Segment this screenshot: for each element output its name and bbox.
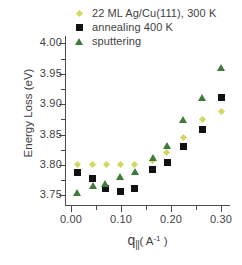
energy-loss-dispersion-chart: 3.753.803.853.903.954.00 0.000.100.200.3… <box>0 0 242 265</box>
x-tick-label: 0.10 <box>101 214 141 225</box>
y-tick-minor <box>61 180 66 181</box>
legend-item: 22 ML Ag/Cu(111), 300 K <box>72 6 216 20</box>
legend-label: 22 ML Ag/Cu(111), 300 K <box>92 6 216 20</box>
chart-legend: 22 ML Ag/Cu(111), 300 Kannealing 400 Ksp… <box>72 6 216 48</box>
x-axis-line <box>65 205 230 206</box>
x-axis-unit-exponent: -1 <box>153 234 160 243</box>
square-marker <box>72 24 86 31</box>
data-point <box>101 180 109 187</box>
data-point <box>164 159 171 166</box>
legend-item: annealing 400 K <box>72 20 216 34</box>
data-point <box>149 154 157 161</box>
data-point <box>198 94 206 101</box>
data-point <box>89 182 97 189</box>
data-point <box>117 188 124 195</box>
x-tick-major <box>221 206 222 212</box>
data-point <box>131 168 139 175</box>
x-axis-unit-open: ( A <box>139 235 153 247</box>
y-axis-title: Energy Loss (eV) <box>22 33 34 193</box>
data-point <box>218 94 225 101</box>
data-point <box>217 64 225 71</box>
x-tick-label: 0.20 <box>151 214 191 225</box>
x-tick-minor <box>96 206 97 210</box>
data-point <box>131 185 138 192</box>
y-tick-minor <box>61 89 66 90</box>
legend-label: annealing 400 K <box>92 20 173 34</box>
x-tick-major <box>71 206 72 212</box>
x-tick-label: 0.00 <box>51 214 91 225</box>
data-point <box>149 166 156 173</box>
data-point <box>179 116 187 123</box>
y-tick-minor <box>61 59 66 60</box>
data-point <box>116 173 124 180</box>
data-point <box>199 126 206 133</box>
data-point <box>89 175 96 182</box>
legend-label: sputtering <box>92 34 141 48</box>
x-tick-major <box>171 206 172 212</box>
x-axis-title: q||( A-1 ) <box>65 232 230 250</box>
diamond-marker <box>72 11 86 16</box>
triangle-marker-shape <box>75 38 83 45</box>
data-point <box>180 143 187 150</box>
data-point <box>198 116 205 123</box>
data-point <box>102 161 109 168</box>
x-tick-minor <box>196 206 197 210</box>
triangle-marker <box>72 38 86 45</box>
data-point <box>131 161 138 168</box>
y-tick-minor <box>61 150 66 151</box>
x-axis-unit-close: ) <box>161 235 168 247</box>
x-tick-major <box>121 206 122 212</box>
x-tick-minor <box>146 206 147 210</box>
data-point <box>163 149 170 156</box>
legend-item: sputtering <box>72 34 216 48</box>
square-marker-shape <box>76 24 83 31</box>
data-point <box>218 108 225 115</box>
data-point <box>163 142 171 149</box>
data-point <box>74 169 81 176</box>
data-point <box>88 161 95 168</box>
x-tick-label: 0.30 <box>201 214 241 225</box>
data-point <box>116 161 123 168</box>
data-point <box>180 134 187 141</box>
data-point <box>74 161 81 168</box>
y-tick-minor <box>61 119 66 120</box>
data-point <box>73 189 81 196</box>
diamond-marker-shape <box>75 9 82 16</box>
